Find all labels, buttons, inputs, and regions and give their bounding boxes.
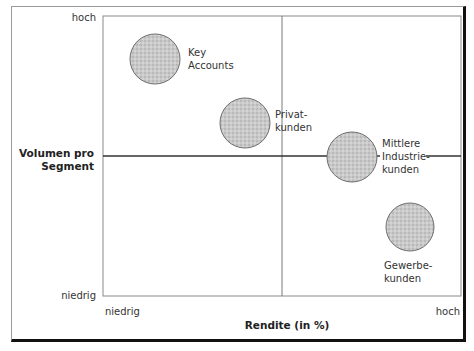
label-mittlere-line2: Industrie- (382, 150, 430, 163)
y-axis-high-label: hoch (40, 11, 96, 24)
y-axis-title-line1: Volumen pro (8, 147, 94, 160)
label-mittlere-line1: Mittlere (382, 137, 420, 150)
x-axis-high-label: hoch (400, 305, 460, 318)
bubble-gewerbekunden (386, 203, 434, 251)
x-axis-low-label: niedrig (105, 305, 140, 318)
label-mittlere-line3: kunden (382, 163, 419, 176)
label-gewerbekunden-line1: Gewerbe- (384, 259, 432, 272)
x-axis-title: Rendite (in %) (220, 319, 354, 332)
bubble-privatkunden (220, 98, 270, 148)
bubble-mittlere-industriekunden (327, 132, 377, 182)
y-axis-low-label: niedrig (30, 289, 96, 302)
label-key-accounts-line1: Key (188, 46, 206, 59)
label-privatkunden-line2: kunden (275, 121, 312, 134)
label-gewerbekunden-line2: kunden (384, 272, 421, 285)
bubble-key-accounts (130, 34, 180, 84)
label-privatkunden-line1: Privat- (275, 108, 307, 121)
y-axis-title-line2: Segment (8, 160, 94, 173)
label-key-accounts-line2: Accounts (188, 59, 234, 72)
